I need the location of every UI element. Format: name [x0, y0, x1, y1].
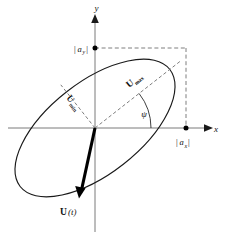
amplitude-x-marker-group: | a x | — [176, 126, 190, 149]
u-max-subscript: max — [133, 75, 145, 86]
minor-axis-dashed-line — [61, 85, 95, 128]
y-axis-label: y — [94, 3, 99, 13]
amplitude-x-bar-close: | — [188, 137, 190, 147]
u-min-subscript: min — [68, 102, 79, 114]
x-axis-label: x — [213, 124, 218, 134]
y-axis: y — [91, 3, 99, 232]
amplitude-y-marker-group: | a y | — [74, 44, 98, 56]
amplitude-y-bar-open: | — [74, 44, 76, 54]
field-vector-argument: (t) — [68, 207, 77, 217]
field-vector-arrowhead — [75, 186, 85, 199]
inclination-angle-group: ψ — [139, 94, 151, 129]
amplitude-x-dot — [184, 126, 189, 131]
polarization-ellipse-figure: x y U max U — [0, 0, 228, 244]
amplitude-x-subscript: x — [184, 143, 188, 149]
inclination-angle-label: ψ — [141, 109, 147, 119]
field-vector-symbol: U — [60, 207, 67, 217]
field-vector-label-group: U (t) — [60, 207, 77, 217]
y-axis-arrowhead — [91, 14, 99, 23]
amplitude-x-symbol: a — [180, 137, 184, 147]
amplitude-y-symbol: a — [78, 44, 82, 54]
field-vector-group: U (t) — [60, 128, 95, 217]
amplitude-y-dot — [93, 46, 98, 51]
major-axis-dashed-line — [95, 62, 180, 129]
u-max-label-group: U max — [124, 71, 145, 91]
x-axis-arrowhead — [204, 124, 213, 132]
figure-root: x y U max U — [0, 0, 228, 244]
minor-axis-group: U min — [61, 85, 95, 128]
amplitude-x-bar-open: | — [176, 137, 178, 147]
u-min-label-group: U min — [63, 93, 83, 114]
amplitude-y-bar-close: | — [86, 44, 88, 54]
amplitude-y-subscript: y — [82, 49, 86, 55]
field-vector-line — [82, 128, 96, 190]
amplitude-x-label-group: | a x | — [176, 137, 190, 149]
major-axis-group: U max — [95, 62, 180, 129]
amplitude-y-label-group: | a y | — [74, 44, 88, 56]
